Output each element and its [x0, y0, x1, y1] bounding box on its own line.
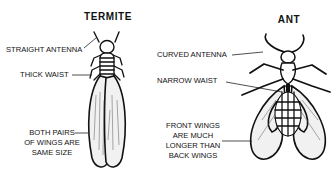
ant-wings-label: FRONT WINGS ARE MUCH LONGER THAN BACK WI… — [166, 121, 221, 160]
termite-wing-right — [105, 76, 126, 167]
ant-head — [281, 51, 295, 63]
termite-wings-label-line-2: OF WINGS ARE — [24, 138, 80, 147]
termite-head — [100, 41, 114, 54]
termite-title: TERMITE — [84, 11, 132, 22]
termite-vs-ant-diagram: TERMITE STRAIGHT ANTENNA THICK WAIST BOT… — [0, 0, 336, 175]
termite-antenna-leader — [84, 38, 96, 48]
ant-antenna-leader — [232, 52, 263, 55]
ant-waist-label: NARROW WAIST — [157, 76, 218, 85]
termite-waist-label: THICK WAIST — [20, 70, 69, 79]
ant-thorax — [281, 63, 296, 84]
ant-waist — [286, 84, 290, 92]
ant-title: ANT — [278, 14, 300, 25]
ant-wings-label-line-3: LONGER THAN — [166, 141, 221, 150]
termite-antenna-label: STRAIGHT ANTENNA — [6, 45, 83, 54]
ant-wings-label-line-4: BACK WINGS — [169, 151, 218, 160]
ant-wings-label-line-2: ARE MUCH — [173, 131, 214, 140]
termite-wings-label: BOTH PAIRS OF WINGS ARE SAME SIZE — [24, 128, 80, 157]
termite-panel: TERMITE STRAIGHT ANTENNA THICK WAIST BOT… — [6, 11, 132, 167]
ant-antennae — [265, 34, 303, 52]
termite-wings-label-line-3: SAME SIZE — [32, 148, 73, 157]
ant-antenna-label: CURVED ANTENNA — [157, 50, 228, 59]
termite-wings-label-line-1: BOTH PAIRS — [29, 128, 74, 137]
ant-wings-label-line-1: FRONT WINGS — [166, 121, 220, 130]
ant-panel: ANT CURVED ANTENNA NARROW WAIST — [157, 14, 330, 160]
termite-illustration — [89, 32, 126, 167]
